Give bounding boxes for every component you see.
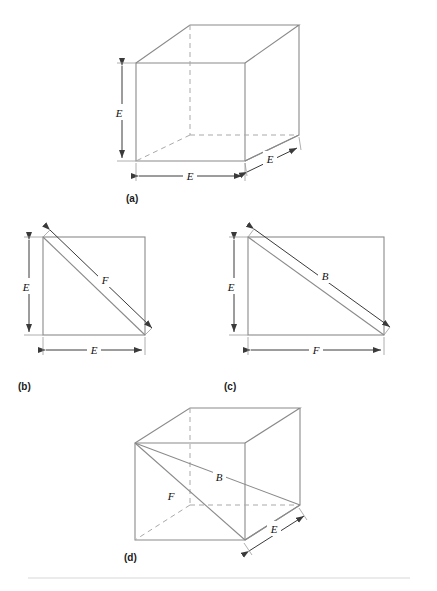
caption-b: (b) <box>18 381 31 392</box>
cube-d-hidden-diag <box>135 505 190 540</box>
dimension-a-height-label: E <box>115 107 123 119</box>
dimension-b-height: E <box>19 237 43 335</box>
dimension-c-width: F <box>248 337 384 357</box>
dimension-c-diagonal-label: B <box>322 270 329 282</box>
square-b-diagonal <box>43 237 145 335</box>
cube-a-top-face <box>136 25 299 63</box>
cube-a-front-face <box>136 63 245 161</box>
dimension-a-depth-label: E <box>266 153 274 165</box>
dimension-d-depth-ext-left <box>244 543 252 555</box>
dimension-b-width-label: E <box>90 344 98 356</box>
panel-b-square: F E E <box>19 230 152 357</box>
caption-c: (c) <box>224 381 236 392</box>
dimension-c-height: E <box>224 237 248 335</box>
cube-d-right-face <box>245 408 300 540</box>
cube-d-top-face <box>135 408 300 443</box>
dimension-a-depth-ext-right <box>299 137 301 150</box>
dimension-c-diagonal-ext-top <box>248 229 254 237</box>
label-d-face-diagonal: F <box>167 490 175 502</box>
dimension-b-diagonal-ext-top <box>43 230 50 237</box>
geometry-figure: E E E (a) F <box>0 0 437 591</box>
caption-a: (a) <box>126 193 138 204</box>
dimension-c-height-label: E <box>227 281 235 293</box>
panel-a-cube: E E E <box>112 25 301 183</box>
dimension-d-depth: E <box>244 508 307 555</box>
dimension-d-depth-label: E <box>270 523 278 535</box>
dimension-a-width: E <box>136 163 245 183</box>
label-d-body-diagonal: B <box>216 471 223 483</box>
dimension-b-height-label: E <box>22 281 30 293</box>
rectangle-c-diagonal <box>248 237 384 335</box>
dimension-a-width-label: E <box>186 170 194 182</box>
dimension-c-width-label: F <box>312 344 320 356</box>
dimension-c-diagonal: B <box>248 229 390 335</box>
panel-d-cube-diagonals: F B E <box>135 408 307 555</box>
panel-c-rectangle: B E F <box>224 229 390 357</box>
dimension-a-height: E <box>112 63 136 161</box>
dimension-b-diagonal-label: F <box>101 274 109 286</box>
caption-d: (d) <box>124 552 137 563</box>
cube-a-edges <box>136 25 299 161</box>
dimension-b-width: E <box>43 337 145 357</box>
dimension-b-diagonal-ext-bottom <box>145 328 152 335</box>
dimension-b-diagonal: F <box>43 230 152 335</box>
dimension-c-diagonal-ext-bottom <box>384 327 390 335</box>
cube-a-right-face <box>245 25 299 161</box>
cube-a-hidden-diag <box>136 135 190 161</box>
